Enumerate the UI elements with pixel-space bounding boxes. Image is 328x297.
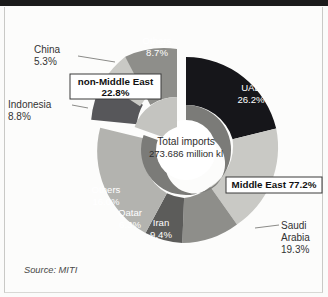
label-non-middle-east-others-value: 8.7% xyxy=(146,47,168,58)
leader-line-china xyxy=(78,56,115,62)
label-indonesia-name: Indonesia xyxy=(8,99,52,110)
donut-chart: Total imports 273.686 million kl UAE 26.… xyxy=(0,0,328,297)
label-iran-value: 9.4% xyxy=(150,229,172,240)
label-indonesia-value: 8.8% xyxy=(8,111,31,122)
label-saudi-arabia-line1: Saudi xyxy=(281,220,307,231)
label-uae-value: 26.2% xyxy=(237,94,265,105)
label-iran-name: Iran xyxy=(153,217,170,228)
leader-line-indonesia xyxy=(72,105,88,108)
label-uae-name: UAE xyxy=(241,82,261,93)
callout-non-middle-east-line1: non-Middle East xyxy=(78,76,154,87)
center-total-label: Total imports xyxy=(157,136,215,147)
chart-figure: Total imports 273.686 million kl UAE 26.… xyxy=(0,0,328,297)
label-non-middle-east-others-name: Others xyxy=(143,35,172,46)
label-saudi-arabia-line2: Arabia xyxy=(281,232,310,243)
leader-line-saudi-arabia xyxy=(255,225,279,228)
label-qatar-name: Qatar xyxy=(118,207,143,218)
label-china-value: 5.3% xyxy=(34,56,57,67)
label-middle-east-others-name: Others xyxy=(92,184,121,195)
label-saudi-arabia-value: 19.3% xyxy=(281,244,309,255)
source-note: Source: MITI xyxy=(24,265,78,275)
label-china-name: China xyxy=(34,44,61,55)
label-middle-east-others-value: 16.0% xyxy=(92,196,120,207)
callout-middle-east: Middle East 77.2% xyxy=(232,179,317,190)
center-total-value: 273.686 million kl xyxy=(149,148,223,159)
label-qatar-value: 6.3% xyxy=(119,219,141,230)
callout-non-middle-east-line2: 22.8% xyxy=(102,87,130,98)
